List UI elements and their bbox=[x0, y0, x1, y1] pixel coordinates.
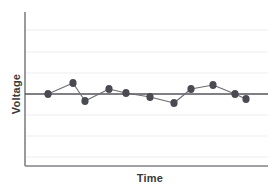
voltage-vs-time-line-chart: Voltage Time bbox=[0, 0, 274, 188]
data-point-marker[interactable] bbox=[231, 90, 238, 98]
y-axis-label: Voltage bbox=[10, 74, 22, 114]
chart-canvas: Voltage Time bbox=[0, 0, 274, 188]
data-point-marker[interactable] bbox=[187, 85, 194, 93]
data-point-marker[interactable] bbox=[146, 93, 153, 101]
data-point-marker[interactable] bbox=[81, 97, 88, 105]
data-point-marker[interactable] bbox=[242, 95, 249, 103]
data-point-marker[interactable] bbox=[105, 85, 112, 93]
data-point-marker[interactable] bbox=[209, 81, 216, 89]
data-point-marker[interactable] bbox=[69, 79, 76, 87]
x-axis-label: Time bbox=[137, 172, 163, 184]
data-point-marker[interactable] bbox=[44, 90, 51, 98]
chart-screenshot: Voltage Time bbox=[0, 0, 274, 188]
data-point-marker[interactable] bbox=[122, 89, 129, 97]
data-point-marker[interactable] bbox=[170, 99, 177, 107]
